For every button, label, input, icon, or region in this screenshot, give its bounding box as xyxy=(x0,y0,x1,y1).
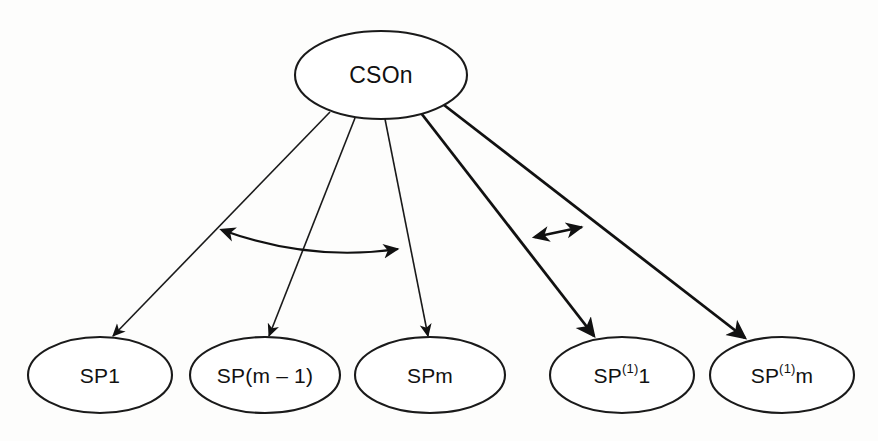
node-sp1-label: SP1 xyxy=(80,364,120,387)
node-spm1[interactable]: SP(m – 1) xyxy=(190,337,340,413)
node-sp1m-superscript: (1) xyxy=(779,361,796,376)
node-sp11-suffix: 1 xyxy=(639,364,651,387)
node-cson[interactable]: CSOn xyxy=(295,31,467,119)
node-sp11[interactable]: SP(1)1 xyxy=(550,337,694,413)
edge-cson-to-sp1 xyxy=(113,112,330,336)
node-spm-label: SPm xyxy=(407,364,453,387)
node-sp1m-base: SP xyxy=(751,364,779,387)
relation-right-double-arrow xyxy=(535,227,582,237)
node-sp1m[interactable]: SP(1)m xyxy=(710,337,854,413)
node-sp11-label: SP(1)1 xyxy=(594,361,651,387)
node-cson-label: CSOn xyxy=(349,62,412,88)
edge-cson-to-spm xyxy=(385,119,428,336)
node-sp1[interactable]: SP1 xyxy=(28,337,172,413)
node-spm1-label: SP(m – 1) xyxy=(217,364,313,387)
edge-cson-to-sp11 xyxy=(421,113,594,336)
diagram-canvas: CSOn SP1 SP(m – 1) SPm SP(1)1 SP(1)m xyxy=(0,0,878,441)
edge-cson-to-sp1m xyxy=(444,105,745,338)
node-sp11-superscript: (1) xyxy=(622,361,639,376)
node-sp1m-suffix: m xyxy=(796,364,814,387)
node-sp11-base: SP xyxy=(594,364,622,387)
edge-cson-to-spm1 xyxy=(269,118,355,336)
diagram-svg: CSOn SP1 SP(m – 1) SPm SP(1)1 SP(1)m xyxy=(0,0,878,441)
node-spm[interactable]: SPm xyxy=(355,337,505,413)
edge-layer xyxy=(113,105,745,338)
